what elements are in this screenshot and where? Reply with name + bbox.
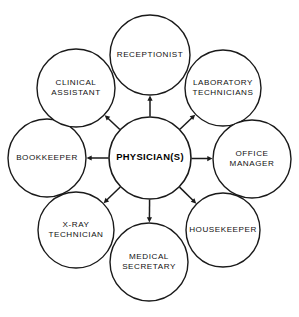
label-line: SECRETARY xyxy=(122,262,176,271)
conn-laboratory-technicians xyxy=(180,115,195,130)
node-physicians[interactable]: PHYSICIAN(S) xyxy=(109,117,191,199)
connector-line xyxy=(107,187,120,200)
connector-line xyxy=(108,118,120,129)
organization-diagram: RECEPTIONISTLABORATORYTECHNICIANSOFFICEM… xyxy=(0,0,299,317)
label-line: ASSISTANT xyxy=(51,88,100,97)
label-line: RECEPTIONIST xyxy=(117,50,183,59)
arrow-head-icon xyxy=(147,217,152,222)
label-line: X-RAY xyxy=(63,220,90,229)
diagram-canvas: RECEPTIONISTLABORATORYTECHNICIANSOFFICEM… xyxy=(0,0,299,317)
conn-bookkeeper xyxy=(87,155,109,160)
node-bookkeeper[interactable]: BOOKKEEPER xyxy=(8,119,86,197)
conn-receptionist xyxy=(147,96,152,117)
label-line: MEDICAL xyxy=(129,252,169,261)
node-x-ray-technician[interactable]: X-RAYTECHNICIAN xyxy=(38,192,114,268)
node-medical-secretary[interactable]: MEDICALSECRETARY xyxy=(110,223,188,301)
node-receptionist[interactable]: RECEPTIONIST xyxy=(110,15,190,95)
arrow-head-icon xyxy=(207,156,212,161)
node-label-housekeeper: HOUSEKEEPER xyxy=(189,225,257,234)
node-label-receptionist: RECEPTIONIST xyxy=(117,50,183,59)
label-line: PHYSICIAN(S) xyxy=(116,151,184,162)
node-housekeeper[interactable]: HOUSEKEEPER xyxy=(186,193,260,267)
node-label-medical-secretary: MEDICALSECRETARY xyxy=(122,252,176,272)
arrow-head-icon xyxy=(87,155,92,160)
node-label-laboratory-technicians: LABORATORYTECHNICIANS xyxy=(193,78,254,98)
node-label-office-manager: OFFICEMANAGER xyxy=(230,149,275,169)
label-line: MANAGER xyxy=(230,159,275,168)
label-line: CLINICAL xyxy=(56,78,97,87)
hub-label-physicians: PHYSICIAN(S) xyxy=(116,151,184,162)
label-line: TECHNICIANS xyxy=(193,88,254,97)
conn-housekeeper xyxy=(180,187,197,204)
node-label-clinical-assistant: CLINICALASSISTANT xyxy=(51,78,100,98)
arrow-head-icon xyxy=(147,96,152,101)
node-laboratory-technicians[interactable]: LABORATORYTECHNICIANS xyxy=(185,50,261,126)
label-line: TECHNICIAN xyxy=(49,230,104,239)
connector-line xyxy=(180,187,194,200)
label-line: HOUSEKEEPER xyxy=(189,225,257,234)
node-clinical-assistant[interactable]: CLINICALASSISTANT xyxy=(37,49,115,127)
conn-x-ray-technician xyxy=(104,187,121,203)
node-office-manager[interactable]: OFFICEMANAGER xyxy=(213,120,291,198)
connector-line xyxy=(180,118,192,130)
node-label-bookkeeper: BOOKKEEPER xyxy=(16,153,78,162)
conn-medical-secretary xyxy=(147,199,152,222)
conn-office-manager xyxy=(191,156,212,161)
hub-layer: PHYSICIAN(S) xyxy=(109,117,191,199)
conn-clinical-assistant xyxy=(105,115,120,129)
label-line: OFFICE xyxy=(236,149,269,158)
label-line: BOOKKEEPER xyxy=(16,153,78,162)
label-line: LABORATORY xyxy=(193,78,253,87)
